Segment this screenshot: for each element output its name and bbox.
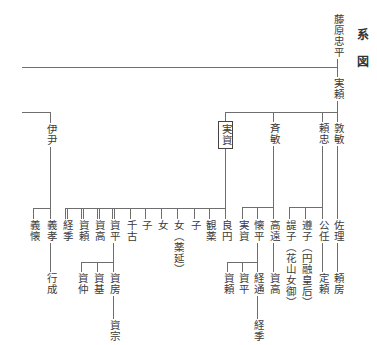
title-zu: 図 <box>356 55 370 69</box>
person-yorifusa: 頼房 <box>332 272 343 296</box>
person-shishi: 諟子（花山女御） <box>284 219 295 309</box>
person-sukehira: 資平 <box>237 272 248 296</box>
person-sukemune: 資宗 <box>108 319 119 343</box>
person-tadatoshi: 斉敏 <box>268 122 279 146</box>
person-suketaka: 資高 <box>268 272 279 296</box>
person-sukeyori-adopted: 資頼 <box>77 219 88 243</box>
person-ryoen: 良円 <box>220 219 231 243</box>
person-tadahira: 藤原忠平 <box>332 13 343 59</box>
person-sanesuke-highlighted: 実資 <box>218 121 233 149</box>
person-yukinari: 行成 <box>45 272 56 296</box>
person-atsutoshi: 敦敏 <box>332 122 343 146</box>
person-saneyori: 実頼 <box>332 77 343 101</box>
person-sukemasa: 佐理 <box>332 219 343 243</box>
person-daughter-2: 女（薬延） <box>172 219 183 276</box>
person-sukehira-adopted: 資平 <box>108 219 119 243</box>
person-sukenaka: 資仲 <box>76 272 87 296</box>
person-tsunesue: 経季 <box>252 319 263 343</box>
person-child-2: 子 <box>189 219 200 232</box>
person-sukemoto: 資基 <box>92 272 103 296</box>
person-takato: 高遠 <box>268 219 279 243</box>
person-kanehira: 懐平 <box>252 219 263 243</box>
person-daughter-1: 女 <box>156 219 167 232</box>
title-kei: 系 <box>356 28 370 42</box>
person-chifuru: 千古 <box>125 219 136 243</box>
person-kanyaku: 観薬 <box>204 219 215 243</box>
person-koretada: 伊尹 <box>45 123 56 147</box>
person-sukefusa: 資房 <box>108 272 119 296</box>
person-suketaka-adopted: 資高 <box>93 219 104 243</box>
person-yoshitaka: 義孝 <box>45 219 56 243</box>
person-junshi: 遵子（円融皇后） <box>300 219 311 309</box>
person-sadayori: 定頼 <box>317 272 328 296</box>
person-tsunemichi: 経通 <box>252 272 263 296</box>
person-child-1: 子 <box>140 219 151 232</box>
person-kinto: 公任 <box>317 219 328 243</box>
person-yoritada: 頼忠 <box>317 122 328 146</box>
person-sanesuke: 実資 <box>237 219 248 243</box>
person-tsunesue-adopted: 経季 <box>61 219 72 243</box>
person-yoshichika: 義懐 <box>28 219 39 243</box>
person-sukeyori: 資頼 <box>222 272 233 296</box>
